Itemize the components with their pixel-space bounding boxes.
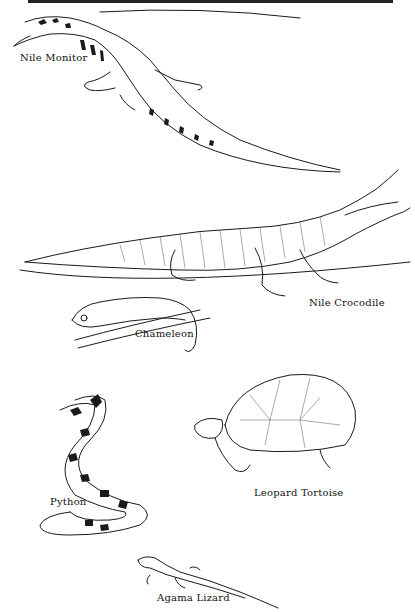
label-python: Python bbox=[50, 496, 87, 507]
leopard-tortoise-drawing bbox=[195, 374, 356, 471]
label-leopard-tortoise: Leopard Tortoise bbox=[254, 487, 343, 498]
label-nile-monitor: Nile Monitor bbox=[20, 52, 87, 63]
label-chameleon: Chameleon bbox=[135, 328, 194, 339]
python-drawing bbox=[40, 394, 148, 535]
label-nile-crocodile: Nile Crocodile bbox=[309, 297, 385, 308]
label-agama-lizard: Agama Lizard bbox=[157, 592, 230, 603]
chameleon-drawing bbox=[72, 298, 210, 352]
nile-crocodile-drawing bbox=[20, 170, 410, 296]
nile-monitor-drawing bbox=[14, 10, 340, 172]
